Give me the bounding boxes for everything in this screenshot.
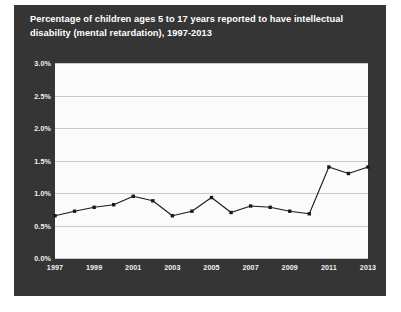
x-axis-tick-label: 2001 [125, 263, 141, 272]
data-point-marker [249, 204, 252, 207]
x-axis-tick-label: 2007 [242, 263, 258, 272]
data-series-line [55, 63, 368, 258]
data-point-marker [132, 195, 135, 198]
x-axis-tick-label: 2003 [164, 263, 180, 272]
data-point-marker [73, 210, 76, 213]
x-axis-tick-label: 2009 [282, 263, 298, 272]
y-axis-tick-label: 0.5% [34, 221, 51, 230]
y-axis-tick-label: 2.0% [34, 124, 51, 133]
data-point-marker [92, 206, 95, 209]
y-axis-tick-label: 2.5% [34, 91, 51, 100]
y-axis-tick-label: 1.5% [34, 156, 51, 165]
data-point-marker [308, 212, 311, 215]
y-axis-tick-label: 1.0% [34, 189, 51, 198]
plot-frame: 0.0%0.5%1.0%1.5%2.0%2.5%3.0% 19971999200… [55, 63, 368, 258]
x-axis-tick-label: 2013 [360, 263, 376, 272]
y-axis-tick-label: 3.0% [34, 59, 51, 68]
gridline [55, 258, 368, 259]
chart-panel: Percentage of children ages 5 to 17 year… [14, 5, 386, 296]
y-axis-tick-label: 0.0% [34, 254, 51, 263]
data-point-marker [327, 165, 330, 168]
data-point-marker [210, 196, 213, 199]
data-point-marker [190, 210, 193, 213]
data-point-marker [288, 210, 291, 213]
x-axis-tick-label: 1997 [47, 263, 63, 272]
data-point-marker [366, 165, 369, 168]
x-axis-tick-label: 2005 [203, 263, 219, 272]
data-point-marker [151, 199, 154, 202]
x-axis-tick-label: 1999 [86, 263, 102, 272]
data-point-marker [112, 203, 115, 206]
data-point-marker [268, 206, 271, 209]
x-axis-tick-label: 2011 [321, 263, 337, 272]
chart-title: Percentage of children ages 5 to 17 year… [30, 13, 370, 40]
data-point-marker [171, 214, 174, 217]
data-point-marker [229, 211, 232, 214]
data-point-marker [53, 214, 56, 217]
data-point-marker [347, 172, 350, 175]
